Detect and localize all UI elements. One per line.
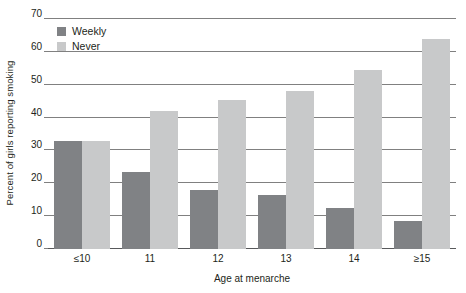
- bar-never: [82, 141, 110, 249]
- x-tick-label: ≥15: [414, 253, 431, 265]
- bar-group: [320, 19, 388, 249]
- bar-never: [150, 111, 178, 249]
- legend-item-weekly: Weekly: [57, 24, 106, 38]
- y-tick-label: 10: [31, 206, 42, 216]
- y-tick-label: 30: [31, 140, 42, 150]
- y-axis-title: Percent of girls reporting smoking: [3, 8, 17, 258]
- x-axis-title: Age at menarche: [48, 273, 456, 285]
- bar-never: [286, 91, 314, 249]
- bar-weekly: [122, 172, 150, 249]
- bar-group: [116, 19, 184, 249]
- bar-weekly: [54, 141, 82, 249]
- bar-never: [422, 39, 450, 249]
- bar-chart: Percent of girls reporting smoking 01020…: [0, 0, 466, 293]
- x-tick-label: 11: [145, 253, 155, 265]
- y-tick-label: 0: [36, 239, 42, 249]
- y-tick-label: 50: [31, 75, 42, 85]
- y-tick-label: 40: [31, 108, 42, 118]
- x-tick-label: 12: [212, 253, 223, 265]
- plot-area: 010203040506070: [48, 19, 456, 249]
- x-tick-label: 14: [348, 253, 359, 265]
- bar-weekly: [326, 208, 354, 249]
- legend-label: Never: [72, 40, 100, 52]
- bar-weekly: [258, 195, 286, 249]
- bar-never: [354, 70, 382, 249]
- bar-never: [218, 100, 246, 250]
- y-tick-label: 20: [31, 173, 42, 183]
- x-tick-label: 13: [280, 253, 291, 265]
- bar-group: [184, 19, 252, 249]
- bar-weekly: [190, 190, 218, 249]
- legend-swatch-icon: [57, 42, 66, 51]
- legend: WeeklyNever: [57, 24, 106, 54]
- bar-group: [388, 19, 456, 249]
- legend-item-never: Never: [57, 39, 106, 53]
- bar-weekly: [394, 221, 422, 249]
- bar-group: [252, 19, 320, 249]
- y-tick-label: 70: [31, 9, 42, 19]
- bars-layer: [48, 19, 456, 249]
- legend-swatch-icon: [57, 27, 66, 36]
- legend-label: Weekly: [72, 25, 106, 37]
- x-tick-label: ≤10: [74, 253, 91, 265]
- y-tick-label: 60: [31, 42, 42, 52]
